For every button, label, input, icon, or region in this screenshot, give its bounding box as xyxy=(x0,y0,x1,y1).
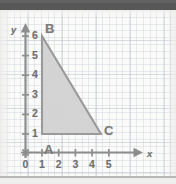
x-tick-label-1: 1 xyxy=(39,159,45,170)
y-tick-label-4: 4 xyxy=(32,69,38,80)
x-axis-label: x xyxy=(147,149,152,159)
vertex-label-c: C xyxy=(104,124,113,137)
y-tick-label-3: 3 xyxy=(32,89,38,100)
y-axis-label: y xyxy=(11,25,16,35)
origin-star-marker xyxy=(21,148,30,157)
vertex-label-b: B xyxy=(45,22,54,35)
x-tick-label-5: 5 xyxy=(106,159,112,170)
x-tick-label-2: 2 xyxy=(56,159,62,170)
x-axis-arrowhead xyxy=(134,148,144,157)
x-tick-label-3: 3 xyxy=(72,159,78,170)
top-chrome-sheen xyxy=(0,0,176,3)
y-axis-arrowhead xyxy=(21,23,30,33)
y-tick-label-1: 1 xyxy=(32,128,38,139)
y-tick-label-6: 6 xyxy=(32,30,38,41)
screenshot-root: 1 2 3 4 5 6 0 1 2 3 4 5 y x A B C xyxy=(0,0,176,184)
x-tick-label-4: 4 xyxy=(89,159,95,170)
x-tick-label-0: 0 xyxy=(23,159,29,170)
vertex-label-a: A xyxy=(44,143,53,156)
bottom-margin-fill xyxy=(0,178,176,184)
y-tick-label-5: 5 xyxy=(32,50,38,61)
y-tick-label-2: 2 xyxy=(32,108,38,119)
top-chrome-bar xyxy=(0,0,176,10)
